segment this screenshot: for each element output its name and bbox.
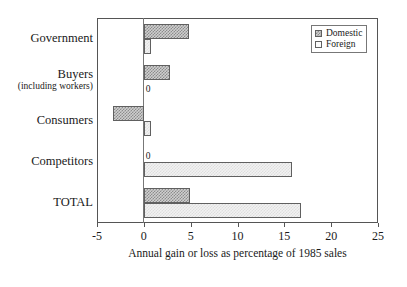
legend-label-foreign: Foreign [326, 39, 356, 50]
x-tick-label: 5 [171, 229, 211, 243]
x-tick-mark [97, 223, 98, 227]
x-tick-mark [191, 223, 192, 227]
x-tick-mark [331, 223, 332, 227]
x-tick-label: 0 [124, 229, 164, 243]
x-axis-title: Annual gain or loss as percentage of 198… [97, 246, 378, 260]
category-label-text: Government [31, 31, 93, 45]
x-tick-mark [144, 223, 145, 227]
category-label-text: Consumers [37, 113, 93, 127]
legend-item-foreign: Foreign [315, 39, 362, 50]
category-sublabel-text: (including workers) [18, 81, 93, 92]
zero-value-annotation: 0 [146, 151, 151, 161]
category-label-text: TOTAL [53, 195, 93, 209]
category-label: Government [31, 32, 93, 45]
category-label: TOTAL [53, 196, 93, 209]
bar-domestic [113, 106, 144, 121]
bar-foreign [144, 203, 301, 218]
legend-item-domestic: Domestic [315, 28, 362, 39]
zero-value-annotation: 0 [146, 84, 151, 94]
x-tick-mark [238, 223, 239, 227]
bar-domestic [144, 24, 189, 39]
bar-foreign [144, 121, 151, 136]
bar-chart: GovernmentBuyers(including workers)Consu… [0, 0, 407, 287]
bar-domestic [144, 188, 190, 203]
legend: Domestic Foreign [311, 25, 367, 53]
category-label: Consumers [37, 114, 93, 127]
bar-domestic [144, 65, 170, 80]
legend-swatch-foreign-icon [315, 41, 322, 48]
bar-foreign [144, 39, 151, 54]
bar-foreign [144, 162, 292, 177]
x-tick-label: 10 [218, 229, 258, 243]
legend-swatch-domestic-icon [315, 30, 322, 37]
category-label: Buyers(including workers) [18, 68, 93, 92]
x-tick-label: -5 [77, 229, 117, 243]
x-tick-mark [378, 223, 379, 227]
x-tick-label: 25 [358, 229, 398, 243]
x-tick-mark [284, 223, 285, 227]
category-label-text: Buyers [58, 67, 93, 81]
category-label-text: Competitors [31, 154, 93, 168]
legend-label-domestic: Domestic [326, 28, 362, 39]
category-label: Competitors [31, 155, 93, 168]
x-tick-label: 15 [264, 229, 304, 243]
x-tick-label: 20 [311, 229, 351, 243]
